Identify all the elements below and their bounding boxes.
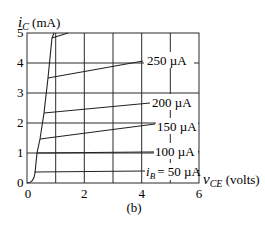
x-tick-4: 4 xyxy=(138,186,145,201)
x-tick-2: 2 xyxy=(81,186,88,201)
x-axis-title: vCE (volts) xyxy=(203,171,260,189)
x-tick-0: 0 xyxy=(25,186,32,201)
curve-250uA xyxy=(48,61,143,78)
curve-200uA xyxy=(44,103,150,113)
curve-labels: 250 µA 200 µA 150 µA 100 µA iB= 50 µA xyxy=(144,52,201,181)
label-200uA: 200 µA xyxy=(152,95,192,110)
y-tick-0: 0 xyxy=(17,175,24,190)
transistor-characteristic-chart: 250 µA 200 µA 150 µA 100 µA iB= 50 µA 0 … xyxy=(0,0,265,226)
x-axis-ticks: 0 2 4 6 xyxy=(25,186,203,201)
y-tick-4: 4 xyxy=(17,55,24,70)
y-tick-2: 2 xyxy=(17,115,24,130)
y-tick-3: 3 xyxy=(17,85,24,100)
label-250uA: 250 µA xyxy=(147,53,187,68)
figure-caption: (b) xyxy=(126,200,141,215)
label-100uA: 100 µA xyxy=(155,144,195,159)
x-tick-6: 6 xyxy=(196,186,203,201)
saturation-curve xyxy=(27,33,54,183)
y-axis-title: iC (mA) xyxy=(18,14,60,32)
y-axis-ticks: 0 1 2 3 4 5 xyxy=(17,25,24,190)
curve-150uA xyxy=(40,124,155,139)
y-tick-1: 1 xyxy=(17,145,24,160)
curve-300uA xyxy=(52,33,68,38)
label-150uA: 150 µA xyxy=(157,119,197,134)
